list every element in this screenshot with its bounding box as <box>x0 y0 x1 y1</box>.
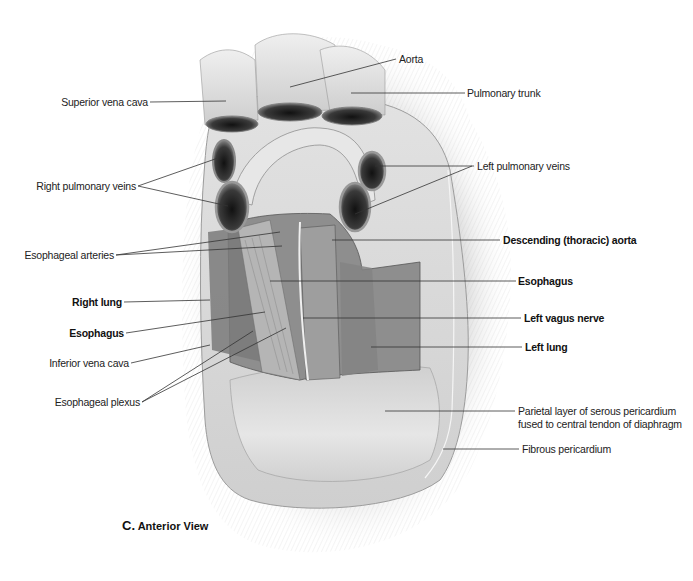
label-parietal-layer-line1: Parietal layer of serous pericardium <box>518 405 676 417</box>
label-left-pulmonary-veins: Left pulmonary veins <box>477 160 570 172</box>
figure-caption: C. Anterior View <box>122 518 208 533</box>
label-right-pulmonary-veins: Right pulmonary veins <box>20 180 136 192</box>
left-lung-region <box>340 262 378 376</box>
central-tendon-floor <box>230 364 439 481</box>
caption-text: Anterior View <box>138 520 209 532</box>
label-esophagus-left: Esophagus <box>40 327 124 339</box>
label-left-vagus-nerve: Left vagus nerve <box>524 312 604 324</box>
label-esophagus-right: Esophagus <box>518 275 573 287</box>
caption-letter: C. <box>122 518 135 533</box>
label-esophageal-plexus: Esophageal plexus <box>30 396 140 408</box>
label-descending-aorta: Descending (thoracic) aorta <box>503 234 636 246</box>
anatomy-illustration <box>0 0 693 581</box>
label-pulmonary-trunk: Pulmonary trunk <box>467 87 540 99</box>
label-esophageal-arteries: Esophageal arteries <box>10 249 114 261</box>
label-fibrous-pericardium: Fibrous pericardium <box>522 443 611 455</box>
label-parietal-layer-line2: fused to central tendon of diaphragm <box>518 418 682 430</box>
label-left-lung: Left lung <box>525 341 568 353</box>
label-inferior-vena-cava: Inferior vena cava <box>20 357 129 369</box>
label-superior-vena-cava: Superior vena cava <box>30 96 148 108</box>
label-right-lung: Right lung <box>40 296 122 308</box>
label-aorta: Aorta <box>399 53 423 65</box>
